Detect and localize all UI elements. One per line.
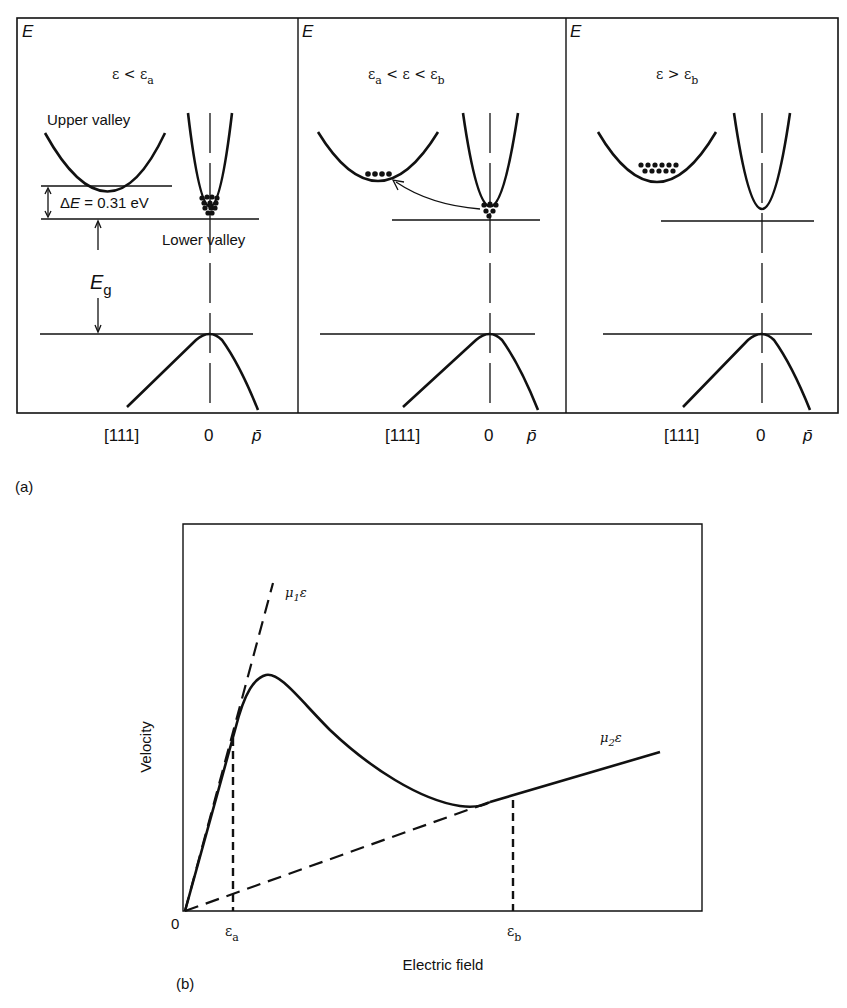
part-b-labels: μ1ε μ2ε Velocity 0 εa εb Electric field …: [137, 585, 622, 992]
chart-frame: [183, 524, 702, 911]
tick-zero: 0: [756, 426, 765, 445]
upper-valley-curve: [45, 133, 165, 192]
panel-2: [318, 113, 540, 413]
electrons-lower: [481, 201, 498, 218]
velocity-curve: [185, 675, 490, 911]
delta-e-label: ΔE = 0.31 eV: [60, 194, 149, 211]
band-gap-label: Eg: [90, 271, 112, 298]
part-a-labels: E E E ε < εa εa < ε < εb ε > εb Upper va…: [15, 22, 812, 495]
mu2-label: μ2ε: [600, 730, 622, 748]
valence-band-curve: [403, 334, 538, 410]
tick-111: [111]: [385, 426, 420, 445]
figure-canvas: E E E ε < εa εa < ε < εb ε > εb Upper va…: [0, 0, 847, 1008]
tick-zero: 0: [484, 426, 493, 445]
origin-label: 0: [171, 915, 179, 932]
transfer-arrow: [396, 182, 480, 209]
part-a-label: (a): [15, 478, 33, 495]
valence-band-curve: [683, 334, 810, 410]
upper-valley-label: Upper valley: [47, 111, 131, 128]
electrons-upper: [365, 171, 392, 177]
tick-111: [111]: [104, 426, 139, 445]
electrons-upper: [638, 162, 678, 173]
mu2-line-dashed: [185, 802, 490, 911]
energy-axis-label: E: [22, 22, 34, 41]
condition-label: ε > εb: [656, 66, 698, 87]
tick-eps-b: εb: [507, 923, 521, 944]
lower-valley-label: Lower valley: [162, 231, 246, 248]
energy-axis-label: E: [302, 22, 314, 41]
tick-111: [111]: [664, 426, 699, 445]
mu1-label: μ1ε: [285, 585, 307, 603]
valence-band-curve: [127, 334, 258, 410]
tick-zero: 0: [204, 426, 213, 445]
energy-axis-label: E: [570, 22, 582, 41]
tick-p: p̄: [802, 426, 812, 445]
part-b-label: (b): [176, 975, 194, 992]
tick-p: p̄: [251, 426, 261, 445]
panel-3: [598, 113, 814, 413]
electron-cluster: [199, 194, 219, 215]
x-axis-label: Electric field: [403, 956, 484, 973]
tick-eps-a: εa: [225, 923, 239, 944]
y-axis-label: Velocity: [137, 721, 154, 773]
upper-valley-curve: [318, 132, 438, 181]
condition-label: εa < ε < εb: [368, 66, 445, 87]
upper-valley-curve: [598, 132, 716, 182]
part-b-chart: [183, 524, 702, 911]
mu2-line-solid: [490, 752, 660, 802]
tick-p: p̄: [526, 426, 536, 445]
panel-1: [40, 113, 259, 413]
condition-label: ε < εa: [112, 66, 154, 87]
